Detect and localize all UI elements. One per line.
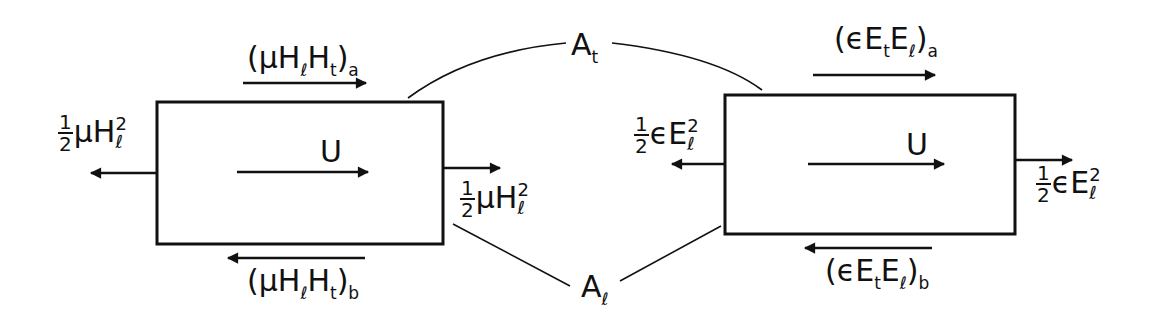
subscript: a	[348, 60, 358, 80]
denominator: 2	[634, 136, 649, 156]
var: E	[855, 253, 874, 288]
var: H	[278, 40, 301, 75]
subscript: t	[883, 41, 890, 61]
var: E	[864, 21, 883, 56]
subscript: t	[330, 283, 337, 303]
var: A	[571, 27, 592, 62]
subscript: b	[348, 283, 359, 303]
subscript: t	[874, 273, 881, 293]
transverse-area-curve-right	[612, 43, 762, 90]
paren: )	[907, 253, 919, 288]
mu-symbol: μ	[259, 40, 278, 75]
right-box-right-pressure-label: 12ϵE2ℓ	[1036, 163, 1101, 205]
epsilon-symbol: ϵ	[846, 21, 864, 56]
var: A	[581, 269, 602, 304]
subscript: t	[592, 47, 599, 67]
numerator: 1	[58, 112, 73, 134]
fraction: 12	[634, 114, 649, 156]
fraction: 12	[58, 112, 73, 154]
left-box-right-pressure-label: 12μH2ℓ	[460, 178, 529, 220]
var: H	[307, 40, 330, 75]
epsilon-symbol: ϵ	[650, 116, 668, 151]
numerator: 1	[1036, 163, 1051, 185]
var: H	[93, 114, 116, 149]
subscript: t	[330, 60, 337, 80]
var: H	[278, 263, 301, 298]
var: E	[1070, 165, 1089, 200]
epsilon-symbol: ϵ	[837, 253, 855, 288]
var: E	[881, 253, 900, 288]
subscript: ℓ	[900, 273, 907, 293]
numerator: 1	[634, 114, 649, 136]
sup-sub: 2ℓ	[1089, 166, 1100, 202]
transverse-area-label: At	[571, 30, 598, 66]
subscript: ℓ	[687, 135, 698, 153]
subscript: ℓ	[1089, 184, 1100, 202]
right-bottom-flux-label: (ϵEtEℓ)b	[825, 256, 929, 292]
numerator: 1	[460, 178, 475, 200]
epsilon-symbol: ϵ	[1052, 165, 1070, 200]
left-velocity-label: U	[320, 137, 342, 167]
denominator: 2	[58, 134, 73, 154]
sup-sub: 2ℓ	[115, 115, 126, 151]
mu-symbol: μ	[259, 263, 278, 298]
paren: (	[247, 263, 259, 298]
fraction: 12	[1036, 163, 1051, 205]
sup-sub: 2ℓ	[687, 117, 698, 153]
paren: )	[337, 263, 349, 298]
paren: (	[834, 21, 846, 56]
subscript: ℓ	[602, 289, 609, 309]
subscript: b	[919, 273, 930, 293]
subscript: a	[928, 41, 938, 61]
sup-sub: 2ℓ	[517, 181, 528, 217]
subscript: ℓ	[517, 199, 528, 217]
longitudinal-area-line-right	[620, 226, 721, 281]
var: E	[890, 21, 909, 56]
paren: (	[825, 253, 837, 288]
mu-symbol: μ	[74, 114, 93, 149]
var: H	[307, 263, 330, 298]
denominator: 2	[1036, 185, 1051, 205]
paren: )	[916, 21, 928, 56]
subscript: ℓ	[115, 133, 126, 151]
denominator: 2	[460, 200, 475, 220]
left-bottom-flux-label: (μHℓHt)b	[247, 266, 359, 302]
var: E	[668, 116, 687, 151]
right-velocity-label: U	[906, 130, 928, 160]
left-box-left-pressure-label: 12μH2ℓ	[58, 112, 127, 154]
transverse-area-curve-left	[408, 43, 566, 98]
mu-symbol: μ	[476, 180, 495, 215]
fraction: 12	[460, 178, 475, 220]
paren: (	[247, 40, 259, 75]
paren: )	[337, 40, 349, 75]
subscript: ℓ	[909, 41, 916, 61]
right-box-left-pressure-label: 12ϵE2ℓ	[634, 114, 699, 156]
longitudinal-area-label: Aℓ	[581, 272, 609, 308]
right-top-flux-label: (ϵEtEℓ)a	[834, 24, 938, 60]
longitudinal-area-line-left	[453, 224, 570, 286]
left-top-flux-label: (μHℓHt)a	[247, 43, 359, 79]
var: H	[495, 180, 518, 215]
